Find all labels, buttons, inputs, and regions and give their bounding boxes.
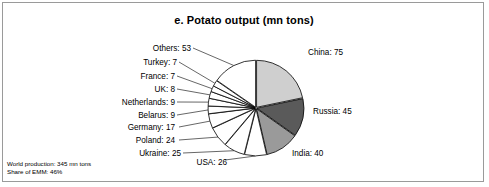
slice-label-belarus: Belarus: 9	[95, 111, 175, 120]
chart-frame: e. Potato output (mn tons) China: 75 Rus…	[2, 2, 484, 182]
slice-label-turkey: Turkey: 7	[105, 58, 177, 67]
leader-line	[225, 156, 256, 160]
leader-line	[177, 76, 212, 89]
slice-label-others: Others: 53	[123, 44, 191, 53]
leader-line	[179, 62, 215, 83]
slice-label-ukraine: Ukraine: 25	[113, 149, 181, 158]
pie-chart: China: 75 Russia: 45 India: 40 USA: 26 U…	[3, 3, 485, 183]
leader-line	[179, 121, 210, 127]
leader-line	[179, 137, 218, 140]
pie-chart-svg	[3, 3, 485, 183]
footnote-world-production: World production: 345 mn tons	[7, 160, 91, 168]
leader-line	[177, 110, 208, 115]
slice-label-uk: UK: 8	[113, 85, 175, 94]
leader-line	[193, 48, 234, 65]
footnote-share-emm: Share of EMM: 46%	[7, 168, 91, 176]
chart-footnote: World production: 345 mn tons Share of E…	[7, 160, 91, 176]
slice-label-poland: Poland: 24	[107, 136, 175, 145]
slice-label-india: India: 40	[292, 149, 323, 158]
slice-label-china: China: 75	[308, 48, 343, 57]
pie-slices	[208, 60, 304, 156]
slice-label-usa: USA: 26	[159, 158, 227, 167]
leader-line	[177, 89, 210, 95]
slice-label-netherlands: Netherlands: 9	[75, 98, 175, 107]
leader-line	[183, 151, 234, 153]
slice-label-france: France: 7	[103, 72, 175, 81]
slice-label-russia: Russia: 45	[313, 107, 352, 116]
slice-label-germany: Germany: 17	[93, 123, 175, 132]
